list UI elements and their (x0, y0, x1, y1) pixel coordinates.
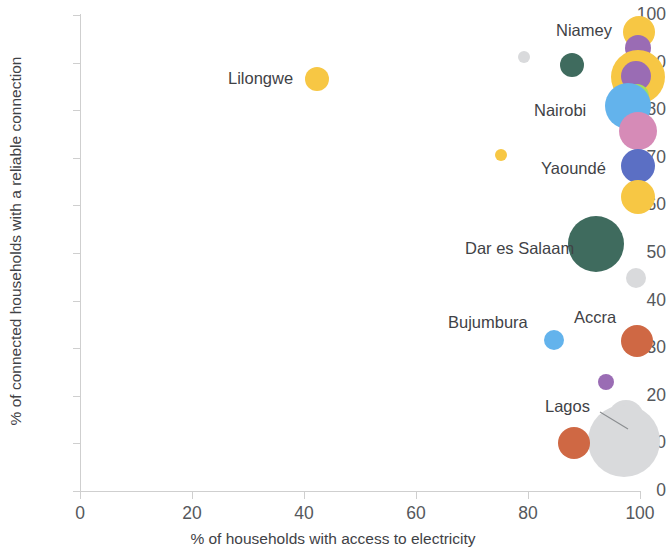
city-label-accra: Accra (574, 309, 616, 326)
bubble-data-point[interactable] (568, 216, 624, 272)
bubble-data-point[interactable] (495, 149, 507, 161)
bubble-data-point[interactable] (560, 53, 584, 77)
city-label-lagos: Lagos (545, 398, 590, 415)
city-label-dar-es-salaam: Dar es Salaam (465, 240, 574, 257)
bubble-data-point[interactable] (621, 149, 655, 183)
city-label-lilongwe: Lilongwe (228, 70, 293, 87)
bubble-chart: 0102030405060708090100 020406080100 Lilo… (0, 0, 666, 554)
x-tick-label: 100 (605, 505, 666, 523)
x-tick-label: 0 (45, 505, 115, 523)
bubble-data-point[interactable] (621, 180, 655, 214)
x-tick-mark (528, 491, 529, 499)
bubble-data-point[interactable] (558, 427, 590, 459)
bubble-data-point[interactable] (588, 405, 660, 477)
bubble-data-point[interactable] (544, 330, 564, 350)
city-label-niamey: Niamey (556, 22, 612, 39)
bubble-data-point[interactable] (305, 67, 329, 91)
x-tick-mark (416, 491, 417, 499)
bubble-data-point[interactable] (621, 325, 653, 357)
x-tick-label: 20 (157, 505, 227, 523)
x-tick-label: 60 (381, 505, 451, 523)
city-label-nairobi: Nairobi (534, 102, 586, 119)
bubble-data-point[interactable] (598, 374, 614, 390)
x-tick-mark (80, 491, 81, 499)
city-label-yaounde: Yaoundé (541, 160, 606, 177)
x-tick-label: 80 (493, 505, 563, 523)
bubble-data-point[interactable] (518, 51, 530, 63)
x-tick-mark (304, 491, 305, 499)
bubble-data-point[interactable] (619, 112, 657, 150)
bubble-data-point[interactable] (626, 268, 646, 288)
x-axis-title: % of households with access to electrici… (0, 530, 666, 548)
x-tick-mark (192, 491, 193, 499)
y-axis-title: % of connected households with a reliabl… (7, 6, 25, 476)
x-tick-label: 40 (269, 505, 339, 523)
city-label-bujumbura: Bujumbura (448, 314, 528, 331)
x-axis-line (80, 491, 641, 492)
x-tick-mark (640, 491, 641, 499)
